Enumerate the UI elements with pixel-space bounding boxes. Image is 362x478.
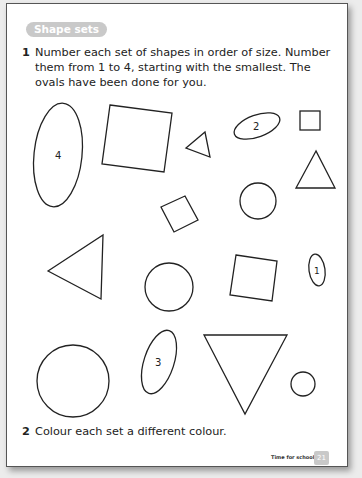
circle-large: [37, 345, 109, 417]
triangle-large-down: [204, 335, 287, 414]
question-text: Colour each set a different colour.: [35, 424, 335, 439]
circle-medium-top: [240, 183, 276, 219]
square-medium: [230, 255, 277, 301]
square-small: [300, 111, 320, 130]
square-large: [102, 105, 172, 172]
footer-title: Time for school: [271, 454, 314, 460]
oval-large: 4: [29, 101, 88, 209]
triangle-left: [48, 235, 103, 299]
svg-text:3: 3: [155, 357, 161, 368]
oval-tilted: 3: [135, 326, 184, 398]
svg-text:2: 2: [253, 121, 259, 132]
question-number: 2: [22, 424, 30, 439]
circle-medium: [145, 263, 193, 311]
svg-text:1: 1: [314, 266, 320, 276]
question-2: 2 Colour each set a different colour.: [22, 424, 335, 439]
shapes-area: 4 2 3 1: [0, 0, 362, 478]
oval-small: 1: [307, 253, 327, 287]
page-number-badge: 21: [314, 451, 329, 465]
oval-flat: 2: [231, 107, 284, 144]
svg-text:4: 4: [55, 150, 61, 161]
triangle-small: [186, 132, 210, 157]
triangle-medium-up: [296, 151, 335, 188]
square-tilted: [161, 196, 198, 232]
circle-small: [291, 372, 315, 396]
